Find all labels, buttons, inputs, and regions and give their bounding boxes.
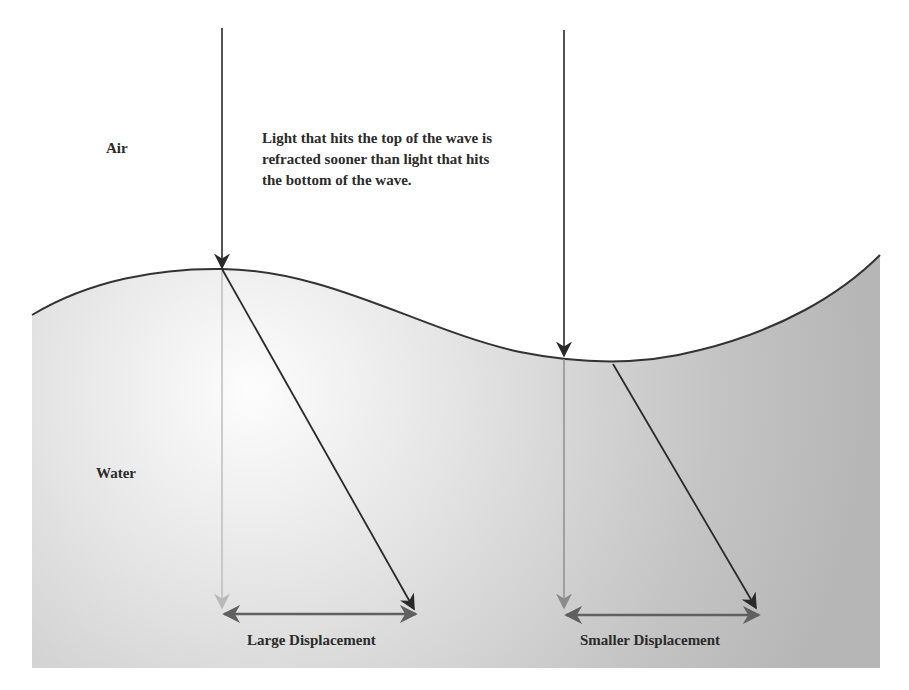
water-label: Water <box>96 463 136 484</box>
diagram-canvas <box>0 0 909 690</box>
annotation-text: Light that hits the top of the wave is r… <box>262 128 492 191</box>
annotation-line-3: the bottom of the wave. <box>262 170 492 191</box>
annotation-line-1: Light that hits the top of the wave is <box>262 128 492 149</box>
air-label: Air <box>106 138 128 159</box>
water-region <box>32 255 880 668</box>
annotation-line-2: refracted sooner than light that hits <box>262 149 492 170</box>
smaller-displacement-label: Smaller Displacement <box>580 630 720 651</box>
large-displacement-label: Large Displacement <box>247 630 376 651</box>
refraction-diagram: Air Light that hits the top of the wave … <box>0 0 909 690</box>
